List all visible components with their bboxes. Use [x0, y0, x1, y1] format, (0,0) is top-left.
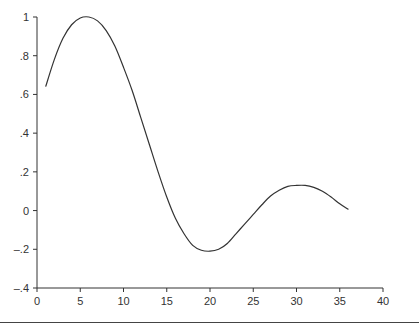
y-tick-label: 1	[23, 11, 29, 23]
line-chart: –.4–.20.2.4.6.81 0510152025303540	[0, 0, 419, 320]
data-line	[46, 17, 349, 252]
x-tick-label: 20	[204, 295, 216, 307]
x-tick-label: 10	[117, 295, 129, 307]
x-tick-label: 0	[34, 295, 40, 307]
x-tick-label: 5	[77, 295, 83, 307]
x-tick-label: 30	[290, 295, 302, 307]
caption-divider	[0, 322, 419, 323]
x-tick-label: 15	[161, 295, 173, 307]
y-axis: –.4–.20.2.4.6.81	[14, 11, 37, 294]
y-tick-label: .8	[20, 50, 29, 62]
y-tick-label: –.4	[14, 282, 29, 294]
y-tick-label: .2	[20, 166, 29, 178]
y-tick-label: .6	[20, 88, 29, 100]
x-tick-label: 25	[247, 295, 259, 307]
y-tick-label: 0	[23, 205, 29, 217]
x-tick-label: 40	[377, 295, 389, 307]
x-tick-label: 35	[334, 295, 346, 307]
y-tick-label: .4	[20, 127, 29, 139]
y-tick-label: –.2	[14, 243, 29, 255]
x-axis: 0510152025303540	[34, 288, 389, 307]
